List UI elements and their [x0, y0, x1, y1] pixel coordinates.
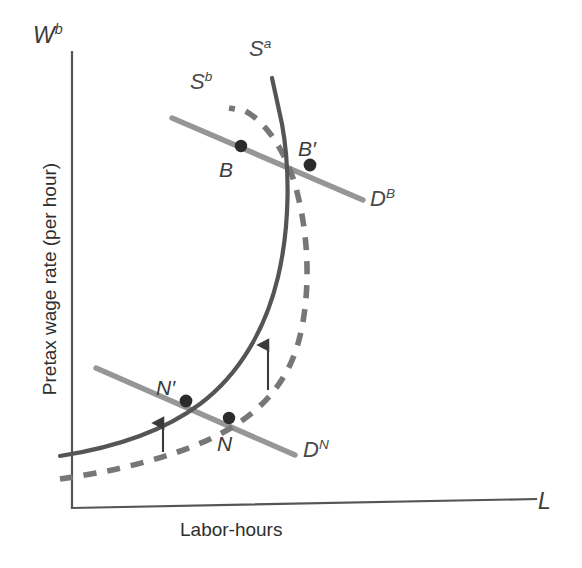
- curve-label-supply-before: Sb: [190, 69, 212, 95]
- x-axis-line: [72, 499, 536, 508]
- supply-curve-Sb[interactable]: [60, 108, 307, 479]
- point-marker-B[interactable]: [235, 140, 247, 152]
- point-marker-N[interactable]: [223, 412, 235, 424]
- y-axis-title: Pretax wage rate (per hour): [39, 129, 61, 429]
- curve-label-demand-high: DB: [370, 186, 395, 212]
- equilibrium-points-group: [180, 140, 317, 424]
- supply-curves-group: [60, 78, 307, 479]
- curve-label-supply-after: Sa: [249, 36, 271, 62]
- point-marker-N-prime[interactable]: [180, 395, 193, 408]
- x-axis-title: Labor-hours: [180, 519, 282, 541]
- labor-supply-demand-figure: Wb L Pretax wage rate (per hour) Labor-h…: [0, 0, 582, 568]
- plot-canvas: [0, 0, 582, 568]
- point-label-N: N: [217, 432, 232, 456]
- point-label-B: B: [219, 158, 233, 182]
- point-label-B-prime: B′: [298, 137, 316, 161]
- y-axis-symbol: Wb: [33, 21, 63, 49]
- x-axis-symbol: L: [538, 488, 551, 515]
- curve-label-demand-low: DN: [303, 437, 329, 463]
- point-label-N-prime: N′: [156, 376, 175, 400]
